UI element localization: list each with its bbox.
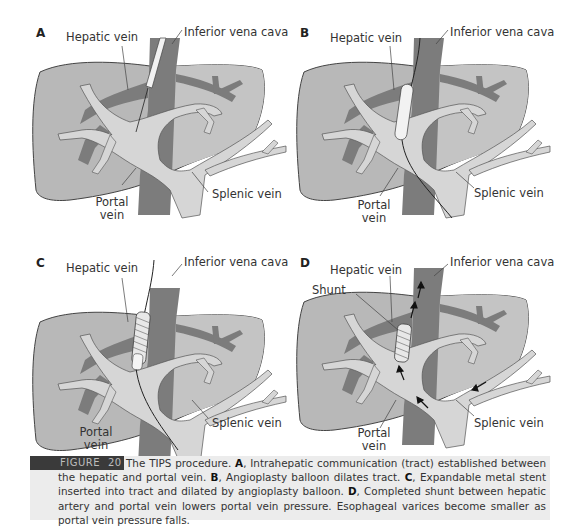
panel-a: A Hepatic vein Inferior vena cava Portal… — [0, 0, 294, 230]
label-hepatic-vein: Hepatic vein — [66, 31, 138, 44]
label-shunt: Shunt — [312, 284, 346, 297]
label-portal-vein: Portal vein — [354, 199, 394, 225]
panel-d: D Hepatic vein Shunt Inferior vena cava … — [294, 250, 588, 480]
label-inferior-vena-cava: Inferior vena cava — [450, 256, 554, 269]
caption-a-label: A — [235, 457, 243, 469]
panel-c: C Hepatic vein Inferior vena cava Portal… — [0, 250, 294, 480]
label-portal-vein: Portal vein — [354, 427, 394, 453]
label-vein: vein — [100, 208, 124, 222]
label-splenic-vein: Splenic vein — [474, 417, 544, 430]
liver-diagram-c — [0, 250, 294, 480]
label-portal: Portal — [357, 426, 390, 440]
panel-letter: D — [300, 256, 310, 270]
caption-b-text: , Angioplasty balloon dilates tract. — [218, 471, 404, 483]
label-vein: vein — [362, 439, 386, 453]
label-portal-vein: Portal vein — [92, 196, 132, 222]
caption-intro: The TIPS procedure. — [126, 457, 235, 469]
caption-text: The TIPS procedure. A, Intrahepatic comm… — [58, 456, 546, 527]
label-inferior-vena-cava: Inferior vena cava — [450, 26, 554, 39]
label-splenic-vein: Splenic vein — [474, 187, 544, 200]
panel-letter: B — [300, 26, 309, 40]
label-vein: vein — [362, 211, 386, 225]
label-portal: Portal — [357, 198, 390, 212]
label-splenic-vein: Splenic vein — [212, 417, 282, 430]
label-portal-vein: Portal vein — [76, 426, 116, 452]
panel-letter: A — [36, 26, 45, 40]
panel-b: B Hepatic vein Inferior vena cava Portal… — [294, 0, 588, 230]
label-portal: Portal — [79, 425, 112, 439]
caption-d-label: D — [348, 485, 357, 497]
label-hepatic-vein: Hepatic vein — [66, 262, 138, 275]
panel-letter: C — [36, 256, 45, 270]
label-portal: Portal — [95, 195, 128, 209]
label-inferior-vena-cava: Inferior vena cava — [184, 256, 288, 269]
label-hepatic-vein: Hepatic vein — [330, 264, 402, 277]
label-vein: vein — [84, 438, 108, 452]
figure-caption: FIGURE 20 The TIPS procedure. A, Intrahe… — [30, 456, 550, 520]
label-splenic-vein: Splenic vein — [212, 188, 282, 201]
label-inferior-vena-cava: Inferior vena cava — [184, 26, 288, 39]
label-hepatic-vein: Hepatic vein — [330, 32, 402, 45]
